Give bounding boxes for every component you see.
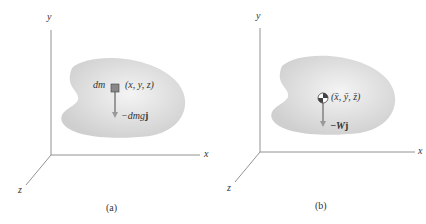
force-label-a: −dmgj (121, 110, 148, 121)
caption-b: (b) (315, 200, 327, 211)
mass-element-icon (111, 84, 119, 92)
caption-a: (a) (106, 202, 117, 213)
point-label-a: (x, y, z) (125, 79, 154, 90)
element-label: dm (93, 79, 105, 90)
diagram-canvas (0, 0, 426, 224)
x-axis-label-b: x (418, 145, 422, 156)
z-axis-label-b: z (227, 182, 231, 193)
center-of-gravity-icon (318, 93, 328, 103)
force-label-b: −Wj (330, 120, 348, 131)
x-axis-label-a: x (204, 148, 208, 159)
z-axis-label-a: z (18, 184, 22, 195)
y-axis-label-a: y (47, 11, 51, 22)
y-axis-label-b: y (256, 10, 260, 21)
body-shape-a (61, 58, 185, 138)
point-label-b: (x̄, ȳ, z̄) (331, 91, 360, 102)
